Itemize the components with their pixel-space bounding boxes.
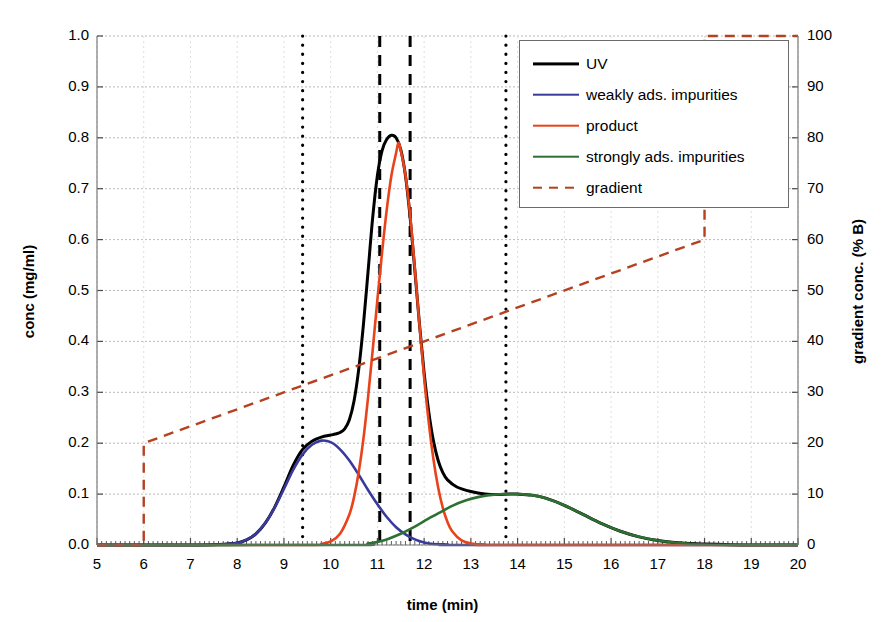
y-tick-label-left-5: 0.5	[43, 281, 89, 298]
legend-item-strongly-ads-impurities[interactable]: strongly ads. impurities	[520, 141, 788, 172]
y-tick-label-left-0: 0.0	[43, 535, 89, 552]
x-tick-label-12: 17	[638, 555, 678, 572]
y-tick-label-left-1: 0.1	[43, 484, 89, 501]
x-tick-label-4: 9	[264, 555, 304, 572]
y-tick-label-left-2: 0.2	[43, 433, 89, 450]
x-tick-label-6: 11	[357, 555, 397, 572]
y-tick-label-left-10: 1.0	[43, 26, 89, 43]
x-tick-label-0: 5	[77, 555, 117, 572]
y-tick-label-right-9: 90	[807, 77, 853, 94]
y-tick-label-right-0: 0	[807, 535, 853, 552]
y-tick-label-left-4: 0.4	[43, 331, 89, 348]
y-tick-label-left-7: 0.7	[43, 179, 89, 196]
legend-item-gradient[interactable]: gradient	[520, 172, 788, 203]
legend-swatch-icon	[533, 120, 579, 132]
legend-swatch-icon	[533, 89, 579, 101]
y-tick-label-right-3: 30	[807, 382, 853, 399]
x-axis-title: time (min)	[0, 596, 885, 613]
x-tick-label-13: 18	[685, 555, 725, 572]
y-tick-label-left-3: 0.3	[43, 382, 89, 399]
y-tick-label-right-6: 60	[807, 230, 853, 247]
series-weakly-ads-impurities	[97, 441, 798, 546]
legend-label: gradient	[586, 179, 642, 197]
legend-label: strongly ads. impurities	[586, 148, 745, 166]
legend-item-product[interactable]: product	[520, 110, 788, 141]
legend-swatch-icon	[533, 58, 579, 70]
y-tick-label-right-7: 70	[807, 179, 853, 196]
x-tick-label-1: 6	[124, 555, 164, 572]
x-tick-label-8: 13	[451, 555, 491, 572]
chart-legend: UVweakly ads. impuritiesproductstrongly …	[519, 40, 789, 208]
legend-label: UV	[586, 55, 608, 73]
x-tick-label-7: 12	[404, 555, 444, 572]
y-tick-label-right-5: 50	[807, 281, 853, 298]
x-tick-label-11: 16	[591, 555, 631, 572]
y-axis-title-left: conc (mg/ml)	[20, 202, 37, 382]
x-tick-label-5: 10	[311, 555, 351, 572]
y-tick-label-right-4: 40	[807, 331, 853, 348]
y-tick-label-right-10: 100	[807, 26, 853, 43]
x-tick-label-10: 15	[544, 555, 584, 572]
legend-item-uv[interactable]: UV	[520, 48, 788, 79]
x-tick-label-9: 14	[498, 555, 538, 572]
y-tick-label-right-2: 20	[807, 433, 853, 450]
x-tick-label-15: 20	[778, 555, 818, 572]
legend-label: product	[586, 117, 638, 135]
legend-item-weakly-ads-impurities[interactable]: weakly ads. impurities	[520, 79, 788, 110]
legend-swatch-icon	[533, 151, 579, 163]
x-tick-label-2: 7	[170, 555, 210, 572]
y-tick-label-right-1: 10	[807, 484, 853, 501]
y-tick-label-right-8: 80	[807, 128, 853, 145]
y-tick-label-left-8: 0.8	[43, 128, 89, 145]
legend-label: weakly ads. impurities	[586, 86, 738, 104]
chromatogram-chart: time (min) conc (mg/ml) gradient conc. (…	[0, 0, 885, 622]
y-tick-label-left-6: 0.6	[43, 230, 89, 247]
legend-swatch-icon	[533, 182, 579, 194]
x-tick-label-14: 19	[731, 555, 771, 572]
x-tick-label-3: 8	[217, 555, 257, 572]
y-tick-label-left-9: 0.9	[43, 77, 89, 94]
